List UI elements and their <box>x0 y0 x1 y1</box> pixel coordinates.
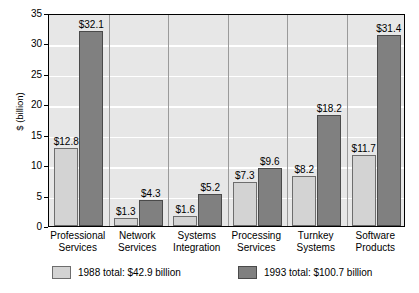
bar-value-label: $5.2 <box>201 182 220 193</box>
bar-value-label: $12.8 <box>54 136 79 147</box>
y-tick-label: 0 <box>14 222 42 232</box>
bar-chart: $ (billion) 05101520253035 $12.8$32.1$1.… <box>0 0 419 293</box>
x-axis-category-label: SoftwareProducts <box>346 230 406 253</box>
y-tick-label: 25 <box>14 70 42 80</box>
bar: $1.6 <box>173 216 197 226</box>
bar: $4.3 <box>139 200 163 226</box>
bar: $32.1 <box>79 31 103 226</box>
y-tick-label: 15 <box>14 131 42 141</box>
group-separator <box>287 15 288 226</box>
category-label-line: Services <box>48 242 108 254</box>
bar: $5.2 <box>198 194 222 226</box>
legend-entry: 1988 total: $42.9 billion <box>52 266 181 279</box>
bar: $7.3 <box>233 182 257 226</box>
bar-value-label: $32.1 <box>79 19 104 30</box>
category-label-line: Integration <box>167 242 227 254</box>
group-separator <box>347 15 348 226</box>
plot-area: $12.8$32.1$1.3$4.3$1.6$5.2$7.3$9.6$8.2$1… <box>48 14 405 227</box>
legend-label: 1988 total: $42.9 billion <box>78 267 181 279</box>
category-label-line: Services <box>108 242 168 254</box>
bar-value-label: $31.4 <box>376 23 401 34</box>
bar-value-label: $9.6 <box>260 156 279 167</box>
category-label-line: Software <box>346 230 406 242</box>
bar: $8.2 <box>292 176 316 226</box>
legend-entry: 1993 total: $100.7 billion <box>238 266 372 279</box>
category-label-line: Products <box>346 242 406 254</box>
category-label-line: Turnkey <box>286 230 346 242</box>
x-axis-category-label: NetworkServices <box>108 230 168 253</box>
chart-legend: 1988 total: $42.9 billion1993 total: $10… <box>0 266 419 286</box>
y-tick-label: 5 <box>14 192 42 202</box>
group-separator <box>168 15 169 226</box>
bar: $18.2 <box>317 115 341 226</box>
category-label-line: Professional <box>48 230 108 242</box>
group-separator <box>109 15 110 226</box>
category-label-line: Services <box>227 242 287 254</box>
y-tick-label: 30 <box>14 39 42 49</box>
x-axis-category-label: SystemsIntegration <box>167 230 227 253</box>
category-label-line: Systems <box>286 242 346 254</box>
bar-value-label: $7.3 <box>235 170 254 181</box>
x-axis-category-label: TurnkeySystems <box>286 230 346 253</box>
y-tick-mark <box>44 227 48 228</box>
bar-value-label: $4.3 <box>141 188 160 199</box>
bar-value-label: $1.6 <box>176 204 195 215</box>
category-label-line: Network <box>108 230 168 242</box>
legend-swatch <box>52 266 71 279</box>
y-tick-label: 20 <box>14 100 42 110</box>
group-separator <box>228 15 229 226</box>
y-tick-label: 10 <box>14 161 42 171</box>
x-axis-category-label: ProcessingServices <box>227 230 287 253</box>
bar: $12.8 <box>54 148 78 226</box>
bar: $9.6 <box>258 168 282 226</box>
bar: $1.3 <box>114 218 138 226</box>
legend-label: 1993 total: $100.7 billion <box>264 267 372 279</box>
x-axis-category-label: ProfessionalServices <box>48 230 108 253</box>
bar: $31.4 <box>377 35 401 226</box>
y-tick-label: 35 <box>14 9 42 19</box>
bar-value-label: $8.2 <box>295 164 314 175</box>
bar-value-label: $11.7 <box>352 143 376 154</box>
bar-value-label: $18.2 <box>317 103 342 114</box>
bar-value-label: $1.3 <box>116 206 135 217</box>
bar: $11.7 <box>352 155 376 226</box>
legend-swatch <box>238 266 257 279</box>
category-label-line: Systems <box>167 230 227 242</box>
category-label-line: Processing <box>227 230 287 242</box>
